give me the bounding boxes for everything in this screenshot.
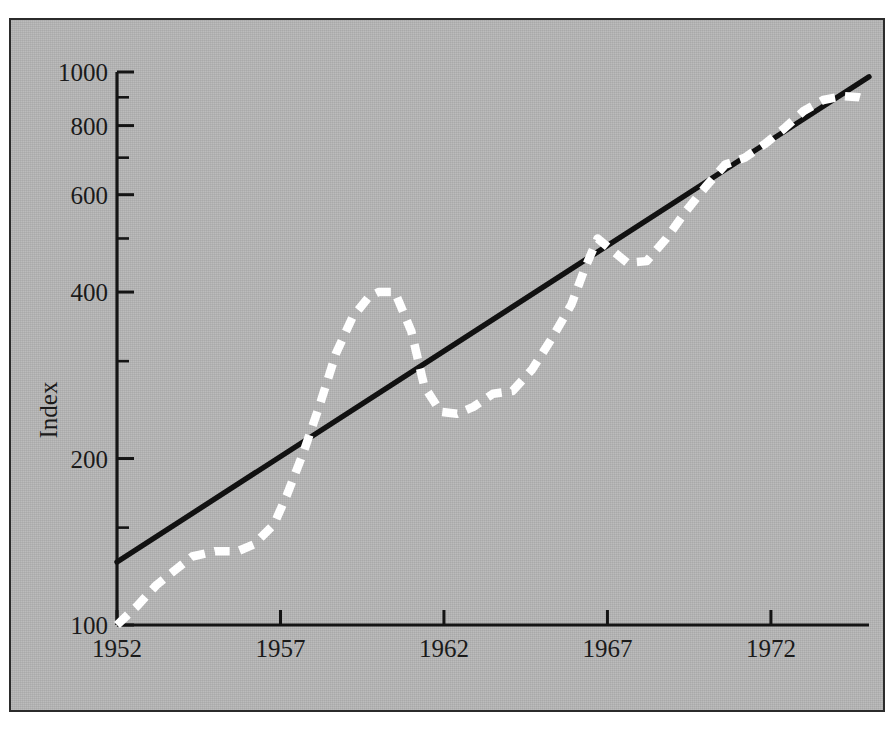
x-tick-label: 1962 xyxy=(419,635,469,662)
data-series-group xyxy=(117,77,869,625)
y-tick-labels: 1002004006008001000 xyxy=(58,59,108,639)
x-tick-label: 1952 xyxy=(92,635,142,662)
y-tick-label: 600 xyxy=(71,182,109,209)
chart-svg: 1002004006008001000 19521957196219671972… xyxy=(11,20,885,712)
y-tick-label: 400 xyxy=(71,279,109,306)
y-tick-label: 800 xyxy=(71,113,109,140)
index-series xyxy=(117,96,869,625)
y-axis-title-text: Index xyxy=(35,381,62,438)
y-axis-title: Index xyxy=(35,381,62,438)
figure-root: 1002004006008001000 19521957196219671972… xyxy=(0,0,893,730)
y-tick-label: 1000 xyxy=(58,59,108,86)
x-tick-label: 1972 xyxy=(746,635,796,662)
x-tick-label: 1957 xyxy=(255,635,305,662)
y-tick-label: 200 xyxy=(71,446,109,473)
plot-area: 1002004006008001000 19521957196219671972… xyxy=(11,20,885,712)
axes-group xyxy=(117,72,869,625)
trend-line xyxy=(117,77,869,562)
x-tick-labels: 19521957196219671972 xyxy=(92,635,796,662)
chart-panel: 1002004006008001000 19521957196219671972… xyxy=(9,18,885,712)
x-tick-label: 1967 xyxy=(582,635,632,662)
